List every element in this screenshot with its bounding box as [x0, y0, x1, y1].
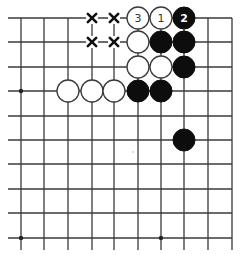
white-stone — [150, 56, 172, 78]
scan-artifact-dot — [132, 151, 133, 152]
white-stone — [127, 56, 149, 78]
star-point — [19, 236, 23, 240]
star-point — [159, 236, 163, 240]
white-stone — [103, 80, 125, 102]
move-number-label: 1 — [158, 12, 165, 25]
board-grid — [8, 18, 232, 250]
move-number-label: 2 — [180, 12, 188, 25]
white-stone — [57, 80, 79, 102]
go-board-diagram: 312 — [0, 0, 242, 255]
black-stone — [173, 56, 195, 78]
x-mark-icon — [86, 12, 98, 24]
stones: 312 — [57, 7, 195, 151]
black-stone — [173, 129, 195, 151]
white-stone-move-3: 3 — [127, 7, 149, 29]
x-mark-icon — [108, 12, 120, 24]
star-point — [19, 89, 23, 93]
white-stone-move-1: 1 — [150, 7, 172, 29]
black-stone-move-2: 2 — [173, 7, 195, 29]
white-stone — [81, 80, 103, 102]
move-number-label: 3 — [135, 12, 142, 25]
black-stone — [173, 31, 195, 53]
black-stone — [127, 80, 149, 102]
x-mark-icon — [108, 36, 120, 48]
black-stone — [150, 80, 172, 102]
white-stone — [127, 31, 149, 53]
x-mark-icon — [86, 36, 98, 48]
black-stone — [150, 31, 172, 53]
